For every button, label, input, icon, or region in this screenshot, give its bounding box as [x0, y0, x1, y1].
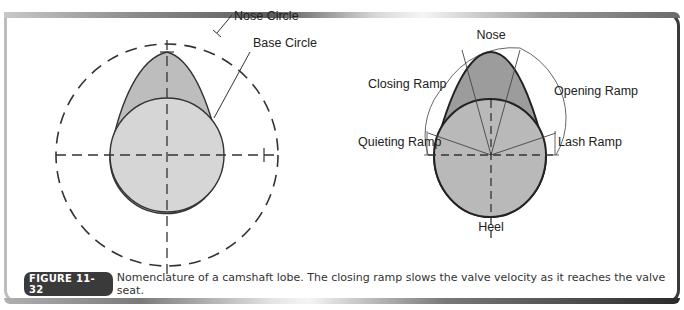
label-quieting-ramp: Quieting Ramp — [358, 135, 441, 149]
lobe-base-region — [434, 99, 546, 217]
nose-circle-leader — [217, 15, 232, 33]
left-lobe-diagram: Nose Circle Base Circle — [56, 9, 317, 280]
label-nose-circle: Nose Circle — [234, 9, 299, 23]
label-heel: Heel — [478, 220, 504, 234]
label-base-circle: Base Circle — [253, 36, 317, 50]
figure-badge: FIGURE 11-32 — [24, 272, 113, 296]
figure-caption: FIGURE 11-32 Nomenclature of a camshaft … — [24, 271, 684, 297]
label-opening-ramp: Opening Ramp — [554, 84, 638, 98]
diagram-canvas: Nose Circle Base Circle Nose Closing Ram… — [0, 0, 684, 310]
nose-circle-leader-tick — [213, 30, 221, 37]
base-circle-leader — [214, 52, 250, 118]
label-lash-ramp: Lash Ramp — [558, 135, 622, 149]
label-nose: Nose — [476, 28, 505, 42]
right-lobe-diagram: Nose Closing Ramp Opening Ramp Quieting … — [358, 28, 638, 240]
label-closing-ramp: Closing Ramp — [368, 77, 447, 91]
caption-text: Nomenclature of a camshaft lobe. The clo… — [117, 271, 684, 297]
